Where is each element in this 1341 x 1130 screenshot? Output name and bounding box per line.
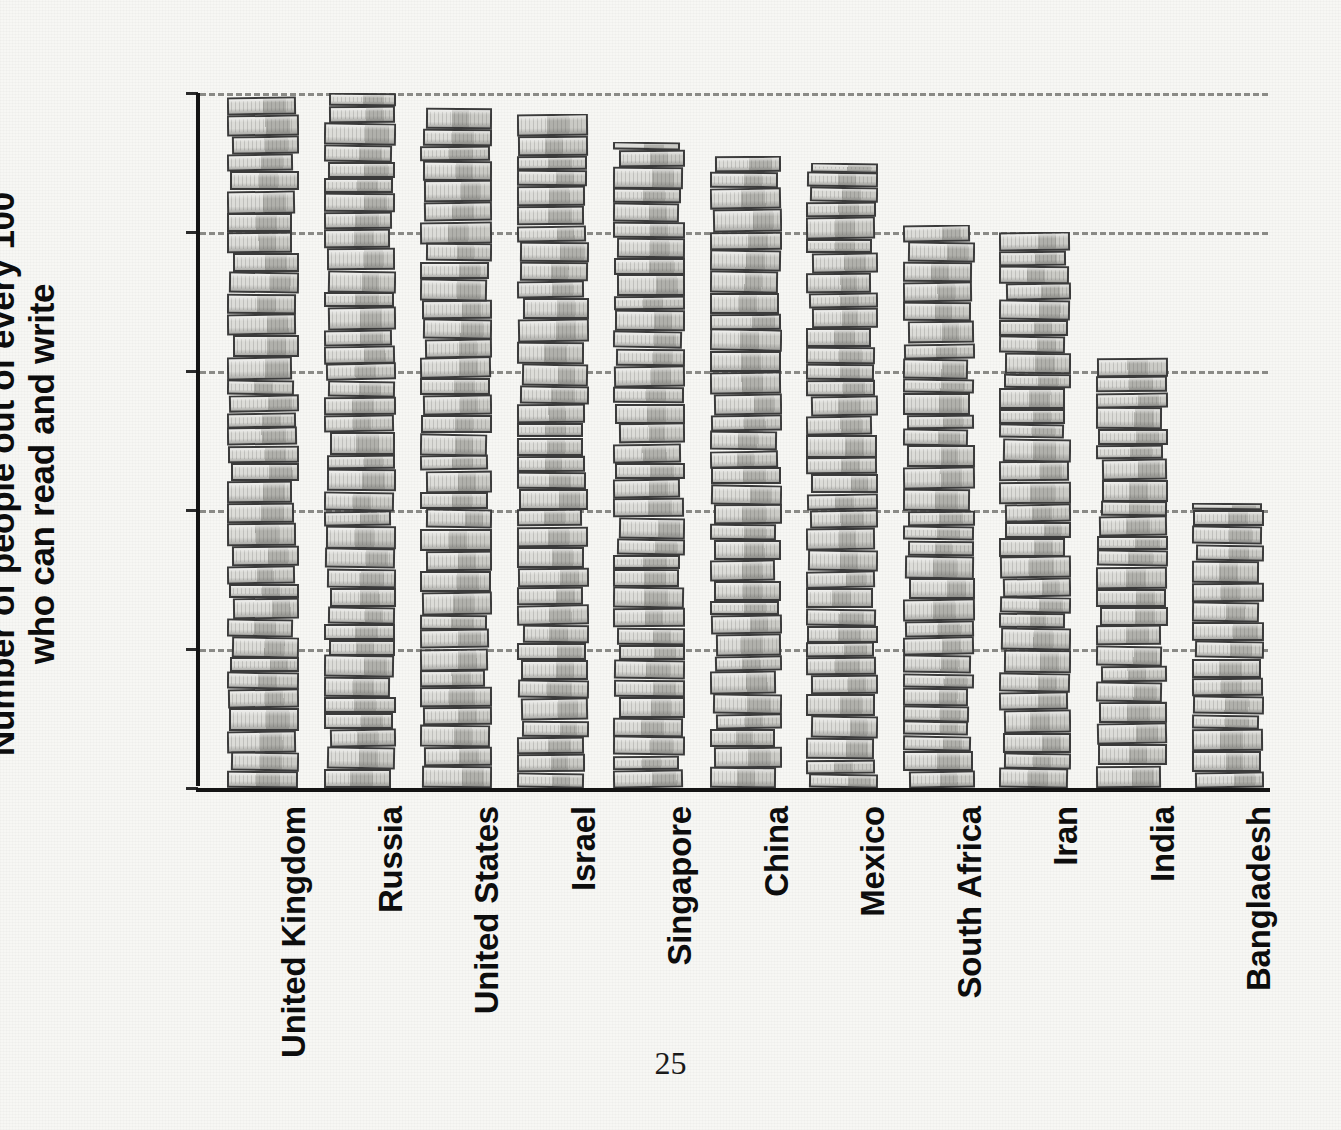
book-unit [613,387,684,404]
book-shadow [1104,472,1165,479]
book-unit [420,357,491,379]
book-highlight [619,240,683,245]
book-unit [425,470,492,493]
book-highlight [233,548,296,553]
book-body [616,538,685,555]
book-shadow [1097,694,1159,701]
book-body [520,261,588,281]
book-body [324,329,392,346]
book-body [1096,681,1162,702]
book-unit [999,692,1068,711]
book-body [327,469,396,492]
book-highlight [812,511,876,516]
book-body [617,627,685,645]
book-highlight [518,116,585,122]
book-unit [517,456,585,472]
book-unit [806,415,872,435]
book-shadow [1005,452,1069,459]
book-body [714,540,781,560]
book-unit [710,314,781,330]
book-highlight [519,344,582,350]
book-body [227,190,296,214]
book-body [710,314,781,330]
book-unit [1004,650,1071,674]
book-unit [903,489,970,512]
book-shadow [808,230,873,237]
book-body [806,588,873,609]
book-highlight [229,234,290,239]
book-unit [613,202,679,222]
book-body [999,692,1068,711]
book-highlight [1104,482,1166,487]
book-unit [1096,681,1162,702]
book-body [905,555,974,579]
book-shadow [812,168,876,171]
book-unit [227,379,294,396]
book-unit [806,346,875,364]
book-highlight [1001,337,1063,342]
book-shadow [519,416,583,422]
book-body [903,262,972,283]
book-body [615,403,685,423]
book-body [613,331,682,349]
book-shadow [712,609,777,613]
book-unit [812,252,878,273]
book-shadow [519,199,583,205]
book-highlight [808,417,870,423]
book-highlight [808,382,873,386]
book-unit [517,206,584,226]
book-unit [909,578,975,599]
book-shadow [711,263,778,270]
book-highlight [425,163,490,168]
book-unit [522,364,589,387]
book-body [420,357,491,379]
book-shadow [1001,401,1063,407]
book-unit [326,568,395,588]
book-unit [423,161,492,181]
book-unit [420,145,490,161]
book-body [1004,710,1071,734]
book-shadow [809,636,876,640]
book-unit [713,693,782,714]
book-body [233,335,299,357]
book-unit [903,393,971,415]
book-shadow [229,306,294,312]
book-body [710,524,776,541]
plot-area [196,86,1270,792]
book-unit [903,467,975,490]
book-highlight [1007,355,1069,361]
book-highlight [715,395,779,401]
book-highlight [1194,603,1257,609]
book-shadow [911,591,973,597]
book-shadow [520,580,587,586]
book-highlight [426,340,490,345]
book-highlight [425,321,490,327]
book-body [806,380,875,396]
book-shadow [1101,528,1165,534]
book-body [806,642,874,657]
book-highlight [331,642,393,646]
book-shadow [520,333,587,340]
book-body [517,679,588,698]
bar-russia [324,93,396,788]
book-shadow [1098,638,1159,644]
book-highlight [712,174,776,178]
book-shadow [711,182,775,186]
book-unit [1102,480,1168,502]
book-body [422,300,492,319]
book-unit [327,248,395,271]
book-body [617,274,685,296]
book-body [715,156,781,172]
book-highlight [808,219,873,225]
book-unit [1192,601,1259,622]
book-body [328,380,395,397]
book-unit [999,482,1071,504]
book-body [999,388,1065,409]
x-tick-label-united-kingdom: United Kingdom [275,554,313,806]
book-highlight [1007,524,1069,528]
book-unit [710,172,778,188]
book-unit [616,538,685,555]
book-shadow [909,423,972,427]
book-shadow [1007,531,1069,535]
book-body [324,229,390,249]
